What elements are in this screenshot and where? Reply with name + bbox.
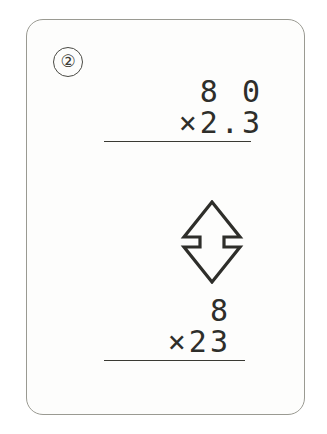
problem-number-badge: ② <box>53 47 83 77</box>
bottom-multiplicand: 8 <box>104 295 279 326</box>
top-horizontal-rule <box>104 141 251 142</box>
worksheet-page: ② 8 0 ×2.3 8 ×23 <box>0 0 327 434</box>
double-headed-vertical-arrow-icon <box>180 200 244 284</box>
top-multiplicand: 8 0 <box>104 76 279 107</box>
top-multiplication-expression: 8 0 ×2.3 <box>104 76 279 142</box>
problem-card: ② 8 0 ×2.3 8 ×23 <box>26 19 305 415</box>
top-multiplier: ×2.3 <box>104 107 279 138</box>
bottom-horizontal-rule <box>104 360 245 361</box>
bottom-multiplier: ×23 <box>104 326 279 357</box>
bottom-multiplication-expression: 8 ×23 <box>104 295 279 361</box>
